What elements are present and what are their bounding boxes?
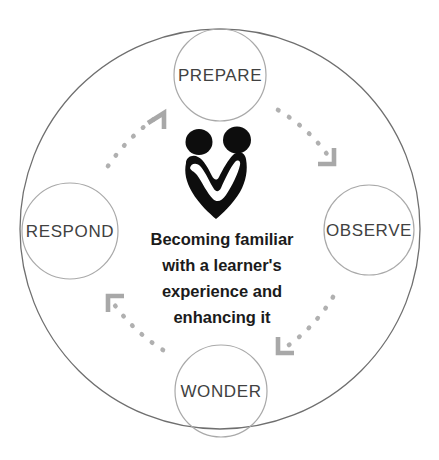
node-label-wonder: WONDER: [180, 382, 261, 401]
connector-respond-to-prepare: [108, 113, 164, 166]
node-respond[interactable]: RESPOND: [22, 183, 118, 279]
connector-prepare-to-observe: [278, 110, 334, 164]
node-label-observe: OBSERVE: [326, 221, 412, 240]
diagram-canvas: PREPARE OBSERVE WONDER RESPOND Bec: [0, 0, 439, 460]
center-caption: Becoming familiar with a learner's exper…: [150, 230, 294, 326]
center-caption-line-3: experience and: [162, 282, 282, 300]
center-caption-line-2: with a learner's: [161, 256, 281, 274]
cycle-diagram: PREPARE OBSERVE WONDER RESPOND Bec: [0, 0, 439, 460]
logo-left-head: [186, 129, 213, 155]
center-caption-line-1: Becoming familiar: [150, 230, 294, 248]
logo-right-head: [223, 127, 251, 154]
node-label-respond: RESPOND: [26, 222, 114, 241]
node-observe[interactable]: OBSERVE: [324, 185, 414, 275]
node-label-prepare: PREPARE: [178, 66, 262, 85]
two-people-heart-logo: [185, 127, 251, 220]
node-prepare[interactable]: PREPARE: [174, 29, 266, 121]
center-caption-line-4: enhancing it: [173, 308, 271, 326]
connector-observe-to-wonder: [278, 297, 333, 353]
connector-wonder-to-respond: [108, 296, 163, 350]
node-wonder[interactable]: WONDER: [175, 345, 267, 437]
